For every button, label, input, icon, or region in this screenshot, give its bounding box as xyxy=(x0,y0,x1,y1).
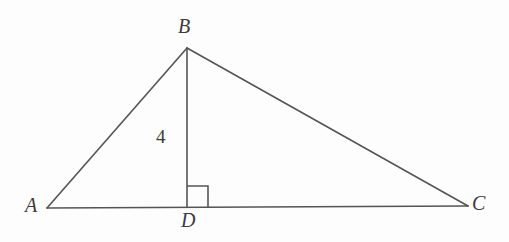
vertex-label-b: B xyxy=(178,16,190,36)
segment-ab xyxy=(47,48,187,208)
segment-ac xyxy=(47,206,468,208)
vertex-label-c: C xyxy=(472,193,485,213)
altitude-length-label: 4 xyxy=(156,127,166,146)
right-angle-marker-icon xyxy=(187,186,208,207)
vertex-label-d: D xyxy=(181,210,195,230)
segment-bc xyxy=(187,48,468,206)
geometry-figure: A B C D 4 xyxy=(0,0,509,242)
vertex-label-a: A xyxy=(25,195,37,215)
triangle-diagram-svg xyxy=(0,0,509,242)
